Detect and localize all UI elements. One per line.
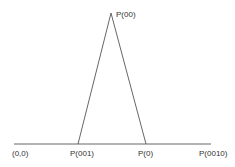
triangle-left-edge bbox=[78, 13, 111, 144]
right-foot-label: P(0) bbox=[138, 150, 153, 158]
axis-end-label: P(0010) bbox=[199, 150, 227, 158]
origin-label: (0,0) bbox=[12, 150, 28, 158]
left-foot-label: P(001) bbox=[70, 150, 94, 158]
triangle-right-edge bbox=[111, 13, 146, 144]
apex-label: P(00) bbox=[116, 11, 136, 19]
diagram-canvas bbox=[0, 0, 235, 167]
